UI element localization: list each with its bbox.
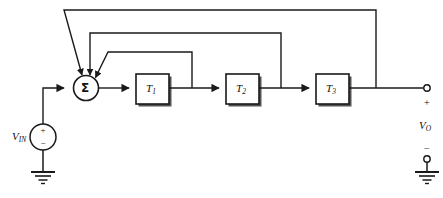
- diagram-canvas: [0, 0, 443, 198]
- output-terminal-positive: [424, 85, 430, 91]
- ground-symbol-output: [415, 172, 439, 184]
- output-terminal-negative: [424, 156, 430, 172]
- block-diagram-figure: Σ T1 T2 T3 VIN + − + VO −: [0, 0, 443, 198]
- output-voltage-label-sub: O: [426, 124, 431, 133]
- input-voltage-label-main: V: [12, 130, 19, 142]
- block-t1-label: T1: [146, 83, 156, 94]
- input-voltage-label: VIN: [12, 131, 26, 142]
- output-minus-sign: −: [424, 144, 430, 154]
- input-voltage-label-sub: IN: [19, 135, 26, 144]
- source-minus-sign: −: [41, 139, 46, 148]
- source-to-summer-wire: [43, 88, 64, 124]
- source-plus-sign: +: [41, 126, 46, 135]
- output-voltage-label: VO: [419, 120, 431, 131]
- block-t3-label: T3: [326, 83, 336, 94]
- block-t2-label: T2: [236, 83, 246, 94]
- block-t2-label-sub: 2: [242, 87, 246, 96]
- block-t1-label-sub: 1: [152, 87, 156, 96]
- ground-symbol-input: [31, 172, 55, 184]
- output-plus-sign: +: [424, 98, 430, 108]
- output-voltage-label-main: V: [419, 119, 426, 131]
- block-t3-label-sub: 3: [332, 87, 336, 96]
- summing-junction-symbol: Σ: [81, 82, 89, 94]
